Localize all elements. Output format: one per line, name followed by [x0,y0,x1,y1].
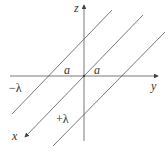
distance-label-left: a [64,64,70,76]
origin-dot [83,75,85,77]
x-axis-label: x [12,130,17,142]
x-axis [25,76,84,137]
z-axis-label: z [74,2,79,14]
positive-lambda-label: +λ [56,113,69,125]
negative-lambda-label: −λ [9,82,22,94]
center-line [84,15,143,76]
distance-label-right: a [94,64,100,76]
diagram-canvas [0,0,168,153]
right-line-charge [53,32,165,146]
y-axis-label: y [151,80,156,92]
